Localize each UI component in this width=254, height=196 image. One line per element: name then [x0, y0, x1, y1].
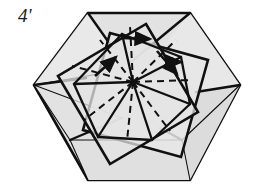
figure-canvas: [0, 0, 254, 196]
arrow-top-right: [122, 38, 150, 39]
step-label: 4': [18, 6, 32, 25]
origami-step-figure: 4': [0, 0, 254, 196]
center-hub: [131, 80, 135, 84]
